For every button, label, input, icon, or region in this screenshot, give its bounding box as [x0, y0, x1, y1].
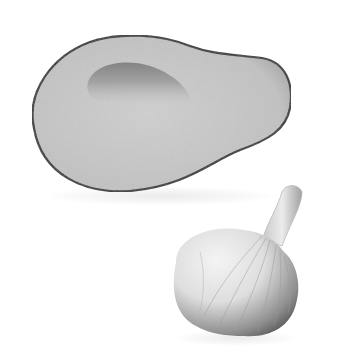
garlic-bulb: [174, 186, 302, 346]
avocado-half: [33, 36, 291, 206]
avocado-flesh: [33, 36, 291, 192]
illustration-scene: [0, 0, 338, 363]
